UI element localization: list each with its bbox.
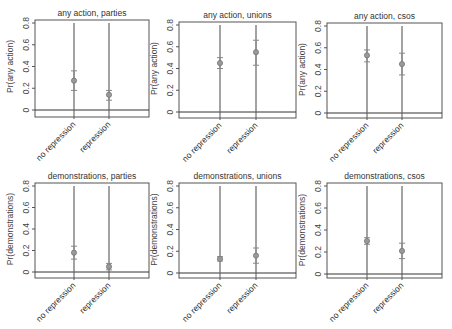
y-tick-label: 0.4 <box>165 223 175 235</box>
y-tick-label: 0 <box>21 107 31 112</box>
x-category-label: no repression <box>180 280 224 324</box>
x-category-label: no repression <box>327 120 371 164</box>
panel-title: demonstrations, unions <box>194 171 282 181</box>
y-tick-label: 0.4 <box>313 224 323 236</box>
panel-title: demonstrations, parties <box>48 171 136 181</box>
y-tick-label: 0.2 <box>21 244 31 256</box>
y-tick-label: 0.8 <box>313 180 323 192</box>
panel-title: any action, unions <box>203 10 272 20</box>
y-tick-label: 0.4 <box>165 62 175 74</box>
point-estimate <box>71 250 76 255</box>
panel-4: demonstrations, partiesPr(demonstrations… <box>5 171 149 324</box>
y-tick-label: 0 <box>165 270 175 275</box>
point-estimate <box>71 78 76 83</box>
y-tick-label: 0.2 <box>165 245 175 257</box>
point-estimate <box>217 60 222 65</box>
x-category-label: repression <box>224 280 259 315</box>
y-axis-label: Pr(any action) <box>149 42 159 95</box>
point-estimate <box>364 238 369 243</box>
point-estimate <box>253 50 258 55</box>
point-estimate <box>253 253 258 258</box>
y-tick-label: 0.6 <box>165 41 175 53</box>
y-axis-label: Pr(any action) <box>5 40 15 93</box>
panel-title: demonstrations, csos <box>344 171 424 181</box>
x-category-label: repression <box>224 120 259 155</box>
y-tick-label: 0.6 <box>21 201 31 213</box>
panel-title: any action, csos <box>354 11 415 21</box>
plot-frame <box>327 23 442 118</box>
point-estimate <box>106 92 111 97</box>
plot-frame <box>179 22 296 118</box>
y-tick-label: 0.2 <box>313 246 323 258</box>
y-tick-label: 0.8 <box>21 180 31 192</box>
point-estimate <box>106 264 111 269</box>
x-category-label: repression <box>77 119 112 154</box>
plot-frame <box>179 183 296 278</box>
y-axis-label: Pr(demonstrations) <box>5 193 15 265</box>
point-estimate <box>364 53 369 58</box>
y-tick-label: 0.6 <box>21 39 31 51</box>
y-tick-label: 0.8 <box>313 20 323 32</box>
plot-frame <box>35 183 149 278</box>
plot-frame <box>327 183 442 278</box>
y-tick-label: 0.4 <box>313 63 323 75</box>
panel-3: any action, csosPr(any action)00.20.40.6… <box>297 11 442 164</box>
figure: any action, partiesPr(any action)00.20.4… <box>0 0 452 329</box>
y-tick-label: 0.4 <box>21 223 31 235</box>
y-tick-label: 0.8 <box>21 17 31 29</box>
panel-6: demonstrations, csosPr(demonstrations)00… <box>297 171 442 324</box>
y-tick-label: 0.6 <box>165 202 175 214</box>
point-estimate <box>399 248 404 253</box>
y-tick-label: 0.2 <box>165 84 175 96</box>
x-category-label: no repression <box>327 280 371 324</box>
y-tick-label: 0.6 <box>313 202 323 214</box>
panel-5: demonstrations, unionsPr(demonstrations)… <box>149 171 296 324</box>
plot-frame <box>35 20 149 117</box>
panel-2: any action, unionsPr(any action)00.20.40… <box>149 10 296 164</box>
y-tick-label: 0.2 <box>21 82 31 94</box>
y-tick-label: 0.6 <box>313 42 323 54</box>
y-tick-label: 0.8 <box>165 180 175 192</box>
y-tick-label: 0 <box>165 109 175 114</box>
y-axis-label: Pr(any action) <box>297 43 307 96</box>
y-axis-label: Pr(demonstrations) <box>149 193 159 265</box>
x-category-label: repression <box>370 280 405 315</box>
point-estimate <box>399 61 404 66</box>
x-category-label: no repression <box>34 119 78 163</box>
panel-1: any action, partiesPr(any action)00.20.4… <box>5 8 149 163</box>
y-tick-label: 0 <box>21 269 31 274</box>
y-axis-label: Pr(demonstrations) <box>297 194 307 266</box>
y-tick-label: 0.2 <box>313 85 323 97</box>
x-category-label: repression <box>77 280 112 315</box>
x-category-label: no repression <box>180 120 224 164</box>
point-estimate <box>217 256 222 261</box>
panel-title: any action, parties <box>58 8 127 18</box>
y-tick-label: 0 <box>313 271 323 276</box>
y-tick-label: 0 <box>313 110 323 115</box>
x-category-label: no repression <box>34 280 78 324</box>
x-category-label: repression <box>370 120 405 155</box>
y-tick-label: 0.8 <box>165 19 175 31</box>
y-tick-label: 0.4 <box>21 60 31 72</box>
